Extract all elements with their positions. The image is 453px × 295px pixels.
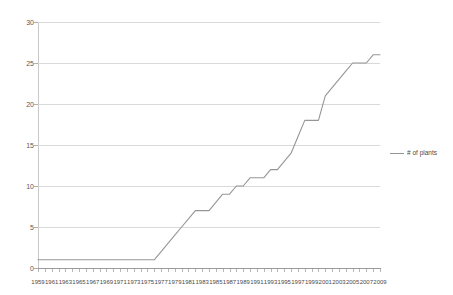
x-tick-label-1963: 1963 [59,278,72,286]
x-tick-mark-2004 [346,269,347,272]
x-tick-mark-1981 [188,269,189,272]
legend-line-swatch-icon [390,153,404,154]
x-tick-label-1993: 1993 [264,278,277,286]
x-tick-label-1971: 1971 [113,278,126,286]
x-tick-label-1983: 1983 [195,278,208,286]
x-tick-mark-1986 [223,269,224,272]
x-tick-mark-1991 [257,269,258,272]
x-tick-mark-2002 [332,269,333,272]
x-tick-mark-1972 [127,269,128,272]
x-tick-mark-1985 [216,269,217,272]
x-tick-mark-1968 [100,269,101,272]
x-tick-mark-1995 [284,269,285,272]
x-tick-label-1991: 1991 [250,278,263,286]
x-tick-label-2005: 2005 [346,278,359,286]
x-tick-label-1975: 1975 [141,278,154,286]
x-tick-label-1981: 1981 [182,278,195,286]
x-tick-mark-1977 [161,269,162,272]
x-tick-mark-2000 [318,269,319,272]
x-tick-label-1967: 1967 [86,278,99,286]
x-tick-label-1989: 1989 [237,278,250,286]
x-tick-mark-1974 [141,269,142,272]
x-tick-mark-1970 [113,269,114,272]
x-tick-mark-2003 [339,269,340,272]
x-tick-mark-1989 [243,269,244,272]
x-tick-mark-1993 [271,269,272,272]
x-tick-mark-1965 [79,269,80,272]
x-tick-mark-1963 [65,269,66,272]
x-tick-mark-1975 [147,269,148,272]
x-tick-label-1987: 1987 [223,278,236,286]
x-tick-mark-1978 [168,269,169,272]
x-tick-mark-1994 [277,269,278,272]
chart-legend[interactable]: # of plants [390,149,437,157]
x-tick-label-1999: 1999 [305,278,318,286]
x-tick-mark-1980 [182,269,183,272]
x-tick-mark-1998 [305,269,306,272]
x-tick-mark-1973 [134,269,135,272]
x-tick-mark-1969 [106,269,107,272]
x-tick-mark-2006 [359,269,360,272]
x-tick-mark-2007 [366,269,367,272]
y-axis-tickmarks [0,22,38,268]
x-tick-mark-1959 [38,269,39,272]
x-tick-mark-1961 [52,269,53,272]
line-chart: 051015202530 195919611963196519671969197… [0,0,453,295]
x-tick-label-1959: 1959 [31,278,44,286]
series-plot [38,22,380,268]
x-tick-mark-2005 [353,269,354,272]
x-axis-labels: 1959196119631965196719691971197319751977… [38,278,381,290]
x-tick-mark-1979 [175,269,176,272]
x-tick-mark-1983 [202,269,203,272]
x-tick-mark-1999 [312,269,313,272]
x-tick-label-2003: 2003 [332,278,345,286]
x-tick-label-1985: 1985 [209,278,222,286]
x-tick-mark-1971 [120,269,121,272]
x-tick-mark-1976 [154,269,155,272]
x-tick-mark-2001 [325,269,326,272]
x-tick-label-2009: 2009 [373,278,386,286]
x-tick-mark-2009 [380,269,381,272]
x-tick-label-1997: 1997 [291,278,304,286]
x-tick-mark-1997 [298,269,299,272]
x-tick-label-1979: 1979 [168,278,181,286]
x-tick-label-1961: 1961 [45,278,58,286]
plot-area [38,22,380,268]
x-tick-mark-1990 [250,269,251,272]
x-tick-mark-1964 [72,269,73,272]
x-tick-mark-1988 [236,269,237,272]
x-tick-label-2007: 2007 [360,278,373,286]
x-tick-mark-1996 [291,269,292,272]
x-tick-mark-1962 [59,269,60,272]
x-axis-tickmarks [38,269,381,273]
x-tick-label-2001: 2001 [319,278,332,286]
x-tick-label-1973: 1973 [127,278,140,286]
x-tick-mark-1984 [209,269,210,272]
x-tick-label-1969: 1969 [100,278,113,286]
x-tick-label-1965: 1965 [72,278,85,286]
x-tick-mark-1992 [264,269,265,272]
x-tick-mark-1987 [230,269,231,272]
x-tick-mark-1960 [45,269,46,272]
x-tick-mark-2008 [373,269,374,272]
x-tick-mark-1966 [86,269,87,272]
x-tick-label-1995: 1995 [278,278,291,286]
legend-label: # of plants [407,149,437,157]
x-tick-mark-1982 [195,269,196,272]
series-line-of-plants [38,55,380,260]
x-tick-mark-1967 [93,269,94,272]
x-tick-label-1977: 1977 [154,278,167,286]
